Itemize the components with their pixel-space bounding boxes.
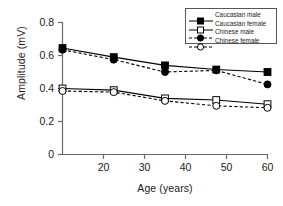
y-tick-label-2: 0.4 — [39, 82, 54, 94]
series-chinese-female — [59, 87, 271, 111]
y-tick-label-0: 0 — [48, 148, 54, 160]
chart-legend: Caucasian male Caucasian female Chinese … — [185, 8, 277, 44]
data-point — [264, 104, 271, 111]
data-point — [213, 67, 220, 74]
data-point — [213, 102, 220, 109]
legend-label: Caucasian female — [215, 20, 266, 28]
legend-item-caucasian-male: Caucasian male — [189, 11, 274, 19]
x-tick-label-1: 30 — [139, 161, 151, 173]
legend-key-open-square-solid-icon — [189, 20, 213, 28]
legend-item-caucasian-female: Caucasian female — [189, 20, 274, 28]
x-tick-label-4: 60 — [262, 161, 274, 173]
chart-figure: Amplitude (mV) Age (years) 0 0.2 0.4 0.6… — [0, 0, 283, 206]
x-tick-label-2: 40 — [180, 161, 192, 173]
legend-key-open-circle-dashed-icon — [189, 37, 213, 45]
data-point — [162, 69, 169, 76]
legend-key-filled-circle-dashed-icon — [189, 28, 213, 36]
data-point — [162, 62, 169, 69]
data-point — [162, 97, 169, 104]
y-tick-label-3: 0.6 — [39, 49, 54, 61]
legend-label: Caucasian male — [215, 11, 261, 19]
data-point — [110, 89, 117, 96]
legend-key-filled-square-solid-icon — [189, 11, 213, 19]
y-tick-label-4: 0.8 — [39, 16, 54, 28]
y-tick-label-1: 0.2 — [39, 115, 54, 127]
data-point — [110, 56, 117, 63]
x-tick-label-3: 50 — [221, 161, 233, 173]
data-point — [264, 81, 271, 88]
legend-label: Chinese female — [215, 37, 259, 45]
x-tick-label-0: 20 — [98, 161, 110, 173]
legend-label: Chinese male — [215, 28, 254, 36]
x-axis-ticks — [104, 155, 268, 160]
legend-item-chinese-male: Chinese male — [189, 28, 274, 36]
data-point — [59, 87, 66, 94]
data-point — [59, 46, 66, 53]
legend-item-chinese-female: Chinese female — [189, 37, 274, 45]
data-point — [264, 69, 271, 76]
data-series-layer — [59, 45, 271, 112]
